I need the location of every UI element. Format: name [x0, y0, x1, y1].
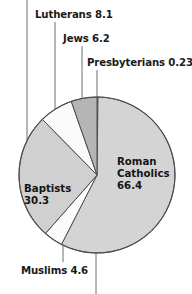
slice-label-roman-value: 66.4 [117, 180, 170, 192]
slice-label-lutherans: Lutherans 8.1 [35, 9, 113, 21]
slice-label-roman-catholics: Roman Catholics 66.4 [117, 156, 170, 193]
pie-chart-figure: Lutherans 8.1 Jews 6.2 Presbyterians 0.2… [0, 0, 192, 294]
slice-label-presbyterians: Presbyterians 0.23 [87, 57, 192, 69]
slice-label-baptists: Baptists 30.3 [24, 183, 71, 207]
slice-label-roman-line1: Roman [117, 156, 170, 168]
slice-label-muslims: Muslims 4.6 [21, 265, 88, 277]
slice-label-baptists-name: Baptists [24, 183, 71, 195]
slice-label-roman-line2: Catholics [117, 168, 170, 180]
slice-label-baptists-value: 30.3 [24, 195, 71, 207]
slice-label-jews: Jews 6.2 [63, 33, 110, 45]
